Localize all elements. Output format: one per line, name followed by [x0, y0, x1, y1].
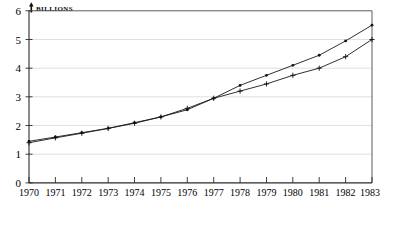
y-tick-label: 2: [16, 120, 22, 132]
data-point-marker: [371, 24, 374, 27]
x-tick-label: 1972: [72, 187, 92, 198]
x-tick-label: 1981: [309, 187, 329, 198]
data-point-marker: [265, 74, 268, 77]
x-tick-label: 1977: [204, 187, 224, 198]
x-tick-label: 1970: [19, 187, 39, 198]
x-tick-label: 1982: [336, 187, 356, 198]
y-axis-title: BILLIONS: [36, 5, 73, 13]
y-tick-label: 3: [16, 91, 22, 103]
data-point-marker: [318, 54, 321, 57]
data-point-marker: [291, 64, 294, 67]
y-tick-label: 5: [16, 34, 22, 46]
x-tick-label: 1979: [257, 187, 277, 198]
x-tick-label: 1973: [98, 187, 118, 198]
line-chart-figure: BILLIONS 6 5 4 3 2 1 0: [0, 0, 394, 231]
x-tick-label: 1971: [45, 187, 65, 198]
x-tick-label: 1976: [177, 187, 197, 198]
y-tick-label: 6: [16, 5, 22, 17]
x-tick-label: 1978: [230, 187, 250, 198]
x-tick-label: 1980: [283, 187, 303, 198]
x-tick-label: 1974: [125, 187, 145, 198]
y-tick-label: 4: [16, 62, 22, 74]
x-tick-label: 1983: [360, 187, 380, 198]
data-point-marker: [344, 40, 347, 43]
x-tick-label: 1975: [151, 187, 171, 198]
y-tick-label: 1: [16, 148, 22, 160]
data-point-marker: [239, 84, 242, 87]
